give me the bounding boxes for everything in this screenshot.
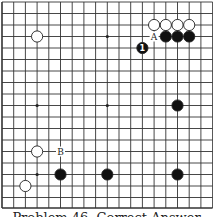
label-b: B — [57, 147, 64, 157]
white-stone — [31, 146, 42, 157]
go-board-diagram: AB 1 — [0, 0, 213, 217]
black-stone — [172, 31, 183, 42]
black-stone — [172, 169, 183, 180]
black-stone — [160, 31, 171, 42]
star-point — [106, 35, 109, 38]
white-stone — [31, 31, 42, 42]
black-stone — [184, 31, 195, 42]
diagram-caption: Problem 46. Correct Answer — [0, 211, 213, 217]
stone-number-label: 1 — [140, 44, 146, 53]
black-stone — [55, 169, 66, 180]
white-stone — [172, 19, 183, 30]
black-stone — [102, 169, 113, 180]
star-point — [106, 104, 109, 107]
white-stone — [20, 180, 31, 191]
white-stone — [184, 19, 195, 30]
white-stone — [160, 19, 171, 30]
white-stone — [149, 19, 160, 30]
star-point — [36, 173, 39, 176]
black-stone — [172, 100, 183, 111]
label-a: A — [150, 32, 158, 42]
star-point — [36, 104, 39, 107]
